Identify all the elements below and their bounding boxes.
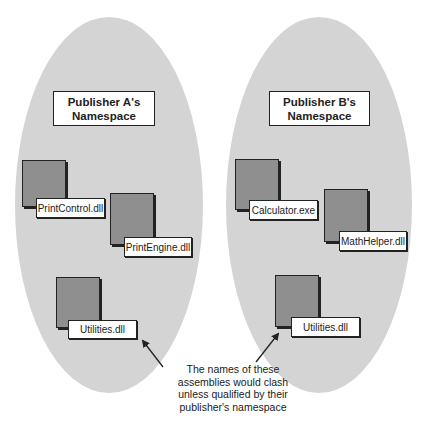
callout-text: The names of these assemblies would clas… [155,363,311,413]
callout-line-3: unless qualified by their [155,388,311,401]
callout-line-2: assemblies would clash [155,376,311,389]
callout-arrows [0,0,425,424]
arrow-to-utilities-b [256,334,278,362]
callout-line-4: publisher's namespace [155,401,311,414]
callout-line-1: The names of these [155,363,311,376]
